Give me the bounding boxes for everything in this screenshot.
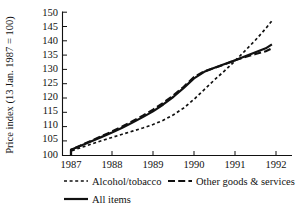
y-axis-title: Price index (13 Jan. 1987 = 100): [4, 16, 16, 154]
x-tick-label: 1990: [184, 159, 205, 170]
y-tick-label: 130: [42, 63, 58, 74]
legend-label-alcohol-tobacco: Alcohol/tobacco: [92, 176, 161, 187]
x-tick-labels: 1987 1988 1989 1990 1991 1992: [61, 159, 287, 170]
x-tick-label: 1992: [266, 159, 287, 170]
x-tick-label: 1989: [143, 159, 164, 170]
price-index-line-chart: Price index (13 Jan. 1987 = 100) 150 145…: [0, 0, 299, 212]
y-tick-label: 145: [42, 21, 58, 32]
series-line-all-items: [71, 44, 272, 155]
y-tick-label: 105: [42, 133, 58, 144]
x-tick-label: 1988: [102, 159, 123, 170]
y-tick-label: 125: [42, 77, 58, 88]
legend-label-all-items: All items: [92, 194, 131, 205]
y-tick-label: 110: [43, 119, 58, 130]
series-line-alcohol-tobacco: [71, 21, 272, 156]
chart-legend: Alcohol/tobacco Other goods & services A…: [64, 176, 295, 205]
x-tick-label: 1987: [61, 159, 82, 170]
series-layer: [71, 21, 272, 156]
legend-label-other-goods-services: Other goods & services: [196, 176, 295, 187]
y-tick-label: 115: [43, 105, 58, 116]
axis-lines: [63, 12, 293, 156]
x-tickmarks: [71, 151, 276, 156]
y-tick-label: 120: [42, 91, 58, 102]
y-tick-labels: 150 145 140 135 130 125 120 115 110 105 …: [42, 7, 58, 160]
chart-svg: Price index (13 Jan. 1987 = 100) 150 145…: [0, 0, 299, 212]
y-tickmarks: [63, 12, 68, 141]
y-tick-label: 135: [42, 49, 58, 60]
y-tick-label: 150: [42, 7, 58, 18]
series-line-other-goods-services: [71, 48, 272, 155]
x-tick-label: 1991: [225, 159, 246, 170]
y-tick-label: 140: [42, 35, 58, 46]
y-tick-label: 100: [42, 149, 58, 160]
